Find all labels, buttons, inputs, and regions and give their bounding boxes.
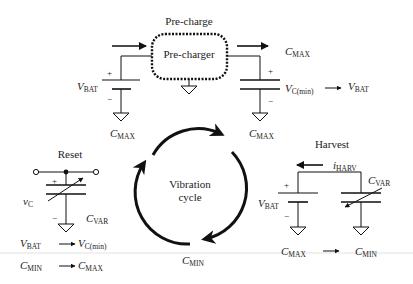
iharv-label: iHARV	[333, 159, 357, 173]
cycle-arrow-icon	[153, 129, 221, 155]
cycle-label-line2: cycle	[178, 191, 201, 203]
vc-label: vC	[23, 195, 33, 209]
svg-text:+: +	[268, 66, 273, 76]
harvest-from: CMAX	[281, 245, 306, 259]
vibration-harvester-diagram: Pre-charge Pre-charger + − VBAT CMAX + −…	[0, 0, 413, 284]
harvest-section: Harvest iHARV + − VBAT CVAR CMAX CMIN	[258, 138, 390, 259]
cvar-label-harvest: CVAR	[368, 174, 390, 188]
ground-icon	[113, 113, 129, 121]
cycle-arrow-icon	[205, 152, 247, 239]
vbat-label: VBAT	[77, 80, 98, 94]
cycle-arrow-icon	[135, 163, 190, 244]
harvest-to: CMIN	[355, 245, 378, 259]
precharger-label: Pre-charger	[163, 48, 214, 60]
svg-text:−: −	[107, 94, 112, 104]
ground-icon	[290, 227, 306, 235]
ground-icon	[58, 224, 74, 232]
vcmin-label: VC(min)	[285, 82, 314, 96]
cmax-label-left: CMAX	[110, 127, 135, 141]
harvest-title: Harvest	[315, 138, 349, 150]
cycle-label-line1: Vibration	[169, 178, 211, 190]
svg-text:−: −	[52, 213, 57, 223]
svg-text:+: +	[52, 176, 57, 186]
reset-row1-from: VBAT	[20, 237, 41, 251]
svg-text:+: +	[284, 180, 289, 190]
cvar-label: CVAR	[86, 212, 108, 226]
svg-text:−: −	[268, 96, 273, 106]
svg-text:+: +	[107, 68, 112, 78]
vibration-cycle: Vibration cycle CMIN	[135, 129, 246, 268]
vbat-target-label: VBAT	[348, 80, 369, 94]
cmin-label: CMIN	[182, 254, 205, 268]
ground-icon	[252, 113, 268, 121]
reset-title: Reset	[58, 148, 82, 160]
precharge-title: Pre-charge	[165, 15, 213, 27]
vbat-label-harvest: VBAT	[258, 197, 279, 211]
cmax-label-right: CMAX	[249, 127, 274, 141]
reset-section: Reset + − vC CVAR VBAT VC(min) CMIN CMAX	[20, 148, 108, 273]
ground-icon	[181, 86, 197, 94]
variable-capacitor-arrow-icon	[345, 188, 382, 207]
svg-text:−: −	[284, 211, 289, 221]
terminal-open	[93, 169, 98, 174]
terminal-open	[33, 169, 38, 174]
cmax-label-top: CMAX	[285, 45, 310, 59]
reset-row2-from: CMIN	[20, 259, 43, 273]
precharge-section: Pre-charge Pre-charger + − VBAT CMAX + −…	[77, 15, 369, 141]
reset-row2-to: CMAX	[78, 259, 103, 273]
ground-icon	[353, 227, 369, 235]
reset-row1-to: VC(min)	[78, 237, 107, 251]
